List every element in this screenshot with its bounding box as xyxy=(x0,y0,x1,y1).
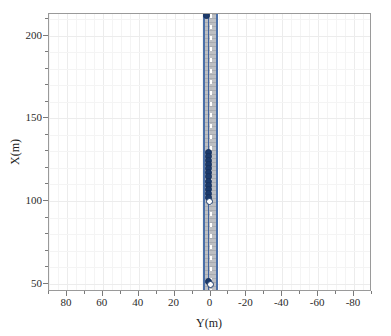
y-axis-tick-label: 200 xyxy=(26,29,43,41)
y-axis-minor-tick xyxy=(45,51,48,52)
figure-canvas: 50100150200806040200-20-40-60-80 X(m) Y(… xyxy=(0,0,391,336)
y-axis-label: X(m) xyxy=(8,139,23,165)
x-axis-minor-tick xyxy=(335,291,336,294)
y-axis-minor-tick xyxy=(45,84,48,85)
x-axis-minor-tick xyxy=(299,291,300,294)
y-axis-tick xyxy=(43,200,48,201)
x-axis-tick-label: 80 xyxy=(60,296,71,308)
x-axis-minor-tick xyxy=(120,291,121,294)
x-axis-minor-tick xyxy=(84,291,85,294)
x-axis-minor-tick xyxy=(192,291,193,294)
x-axis-minor-tick xyxy=(48,291,49,294)
y-axis-minor-tick xyxy=(45,134,48,135)
road-edge-line xyxy=(216,14,218,291)
x-axis-tick-label: 40 xyxy=(132,296,143,308)
x-axis-tick-label: -80 xyxy=(346,296,361,308)
x-axis-label: Y(m) xyxy=(196,316,222,331)
y-axis-minor-tick xyxy=(45,167,48,168)
x-axis-tick-label: 60 xyxy=(96,296,107,308)
y-axis-minor-tick xyxy=(45,250,48,251)
x-axis-tick-label: -60 xyxy=(310,296,325,308)
x-axis-minor-tick xyxy=(227,291,228,294)
x-axis-tick-label: -20 xyxy=(238,296,253,308)
plot-area[interactable] xyxy=(48,13,371,291)
y-axis-tick xyxy=(43,35,48,36)
y-axis-minor-tick xyxy=(45,150,48,151)
y-axis-minor-tick xyxy=(45,233,48,234)
y-axis-tick-label: 100 xyxy=(26,194,43,206)
y-axis-tick xyxy=(43,283,48,284)
x-axis-minor-tick xyxy=(156,291,157,294)
y-axis-minor-tick xyxy=(45,68,48,69)
y-axis-minor-tick xyxy=(45,101,48,102)
y-axis-tick-label: 150 xyxy=(26,111,43,123)
y-axis-minor-tick xyxy=(45,217,48,218)
y-axis-minor-tick xyxy=(45,266,48,267)
trajectory-marker[interactable] xyxy=(207,281,214,288)
y-axis-tick-label: 50 xyxy=(31,277,42,289)
x-axis-minor-tick xyxy=(263,291,264,294)
x-axis-tick-label: 20 xyxy=(168,296,179,308)
y-axis-minor-tick xyxy=(45,183,48,184)
x-axis-tick-label: 0 xyxy=(207,296,213,308)
x-axis-minor-tick xyxy=(371,291,372,294)
y-axis-minor-tick xyxy=(45,18,48,19)
x-axis-tick-label: -40 xyxy=(274,296,289,308)
y-axis-tick xyxy=(43,117,48,118)
